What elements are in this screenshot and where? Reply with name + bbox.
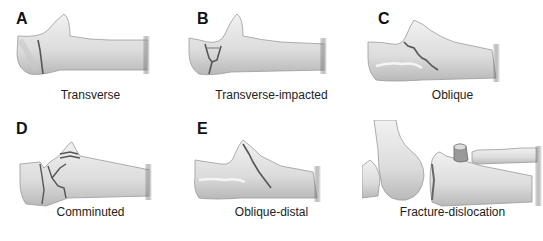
ulna-comminuted-fracture-illustration (0, 120, 181, 241)
panel-d-comminuted: D Comminuted (0, 120, 181, 240)
ulna-transverse-fracture-illustration (0, 0, 181, 120)
panel-caption: Comminuted (0, 205, 181, 219)
panel-caption: Oblique-distal (181, 205, 362, 219)
elbow-fracture-dislocation-illustration (362, 120, 543, 241)
panel-c-oblique: C Oblique (362, 0, 543, 120)
panel-caption: Transverse (0, 88, 181, 102)
panel-a-transverse: A Transverse (0, 0, 181, 120)
panel-b-transverse-impacted: B Transverse-impacted (181, 0, 362, 120)
ulna-oblique-distal-fracture-illustration (181, 120, 362, 241)
ulna-transverse-impacted-fracture-illustration (181, 0, 362, 120)
panel-caption: Fracture-dislocation (362, 205, 543, 219)
panel-e-oblique-distal: E Oblique-distal (181, 120, 362, 240)
panel-caption: Transverse-impacted (181, 88, 362, 102)
panel-caption: Oblique (362, 88, 543, 102)
ulna-oblique-fracture-illustration (362, 0, 543, 120)
panel-f-fracture-dislocation: F Fracture-dislocation (362, 120, 543, 240)
